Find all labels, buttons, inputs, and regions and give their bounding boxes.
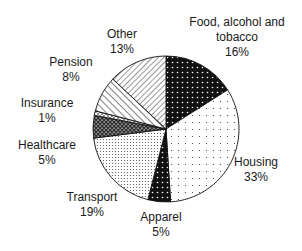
label-transport: Transport 19%: [67, 190, 118, 220]
label-other: Other 13%: [107, 27, 137, 57]
label-food-line1: Food, alcohol and: [189, 15, 284, 30]
label-housing: Housing 33%: [234, 155, 278, 185]
label-insurance-name: Insurance: [21, 96, 74, 111]
label-apparel-name: Apparel: [140, 210, 181, 225]
label-healthcare: Healthcare 5%: [18, 138, 76, 168]
label-healthcare-pct: 5%: [18, 153, 76, 168]
label-apparel: Apparel 5%: [140, 210, 181, 240]
label-pension: Pension 8%: [49, 55, 92, 85]
label-food: Food, alcohol and tobacco 16%: [189, 15, 284, 60]
label-insurance-pct: 1%: [21, 111, 74, 126]
label-pension-pct: 8%: [49, 70, 92, 85]
label-insurance: Insurance 1%: [21, 96, 74, 126]
label-transport-name: Transport: [67, 190, 118, 205]
label-housing-pct: 33%: [234, 170, 278, 185]
label-healthcare-name: Healthcare: [18, 138, 76, 153]
label-pension-name: Pension: [49, 55, 92, 70]
label-apparel-pct: 5%: [140, 225, 181, 240]
label-food-pct: 16%: [189, 45, 284, 60]
label-housing-name: Housing: [234, 155, 278, 170]
label-food-line2: tobacco: [189, 30, 284, 45]
label-other-pct: 13%: [107, 42, 137, 57]
label-other-name: Other: [107, 27, 137, 42]
label-transport-pct: 19%: [67, 205, 118, 220]
